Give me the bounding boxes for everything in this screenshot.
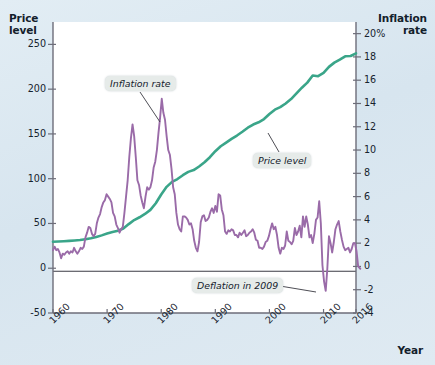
right-tick-label: 14 xyxy=(364,97,398,108)
right-tick-label: 20% xyxy=(364,28,398,39)
left-axis-title-line2: level xyxy=(9,25,38,37)
left-tick-label: 150 xyxy=(12,128,46,139)
left-axis-title-line1: Price xyxy=(9,13,38,25)
left-axis-title: Price level xyxy=(9,13,38,36)
left-tick-label: 50 xyxy=(12,217,46,228)
right-tick-label: -2 xyxy=(364,284,398,295)
right-tick-label: 18 xyxy=(364,51,398,62)
left-tick-label: 0 xyxy=(12,262,46,273)
right-tick-label: 0 xyxy=(364,260,398,271)
left-tick-label: 100 xyxy=(12,173,46,184)
right-tick-label: 8 xyxy=(364,167,398,178)
right-tick-label: 6 xyxy=(364,191,398,202)
right-tick-label: 2 xyxy=(364,237,398,248)
callout-price-level: Price level xyxy=(253,153,311,168)
left-tick-label: -50 xyxy=(12,307,46,318)
right-tick-label: 12 xyxy=(364,121,398,132)
chart-figure: Price level Inflation rate Year -5005010… xyxy=(0,0,435,365)
callout-deflation-2009: Deflation in 2009 xyxy=(192,278,283,293)
right-tick-label: 16 xyxy=(364,74,398,85)
x-axis-title: Year xyxy=(397,345,423,357)
left-tick-label: 250 xyxy=(12,38,46,49)
callout-inflation-rate: Inflation rate xyxy=(105,76,176,91)
right-tick-label: 4 xyxy=(364,214,398,225)
left-tick-label: 200 xyxy=(12,83,46,94)
right-tick-label: 10 xyxy=(364,144,398,155)
right-axis-title-line1: Inflation xyxy=(378,13,427,25)
plot-area-background xyxy=(53,22,356,313)
